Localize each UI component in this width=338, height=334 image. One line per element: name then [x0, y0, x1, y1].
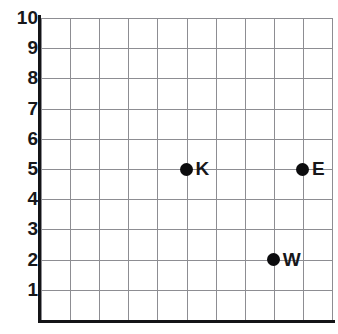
data-point-label-w: W — [283, 250, 301, 269]
gridline-horizontal — [41, 78, 332, 79]
y-axis-tick-label: 6 — [2, 129, 38, 149]
plot-area: KEW — [41, 18, 332, 320]
y-axis-tick-label: 7 — [2, 99, 38, 119]
gridline-horizontal — [41, 109, 332, 110]
y-axis-tick-label: 2 — [2, 250, 38, 270]
y-axis-tick-label: 1 — [2, 280, 38, 300]
y-axis-tick-label: 10 — [2, 8, 38, 28]
data-point-e — [296, 163, 309, 176]
gridline-vertical — [332, 18, 333, 320]
y-axis-tick-label: 5 — [2, 159, 38, 179]
gridline-horizontal — [41, 139, 332, 140]
y-axis-tick-label: 4 — [2, 189, 38, 209]
gridline-horizontal — [41, 290, 332, 291]
data-point-w — [267, 253, 280, 266]
gridline-horizontal — [41, 18, 332, 19]
y-axis-tick-label: 9 — [2, 38, 38, 58]
coordinate-grid-chart: 10987654321 KEW — [0, 0, 338, 334]
x-axis-line — [38, 320, 335, 323]
y-axis-tick-label: 3 — [2, 219, 38, 239]
gridline-horizontal — [41, 48, 332, 49]
y-axis-line — [38, 15, 41, 323]
data-point-label-e: E — [312, 159, 325, 178]
data-point-k — [180, 163, 193, 176]
y-axis-tick-label: 8 — [2, 68, 38, 88]
y-axis-tick-labels: 10987654321 — [0, 0, 38, 334]
gridline-horizontal — [41, 199, 332, 200]
data-point-label-k: K — [196, 159, 210, 178]
gridline-horizontal — [41, 229, 332, 230]
